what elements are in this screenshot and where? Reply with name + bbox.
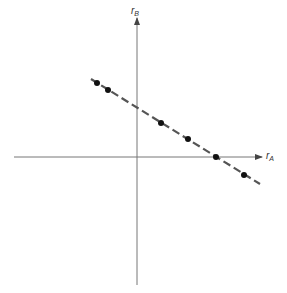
diagram: rB rA xyxy=(0,0,287,293)
data-point xyxy=(213,154,219,160)
data-point xyxy=(158,120,164,126)
data-point xyxy=(185,136,191,142)
dashed-regression-line xyxy=(91,79,260,184)
y-axis-label: rB xyxy=(131,5,139,17)
data-point xyxy=(94,80,100,86)
x-axis-label: rA xyxy=(266,150,274,162)
plot-canvas xyxy=(0,0,287,293)
data-point xyxy=(241,172,247,178)
data-point xyxy=(105,87,111,93)
